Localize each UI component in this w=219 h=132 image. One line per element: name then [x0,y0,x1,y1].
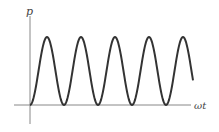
power-waveform-diagram: p ωt [0,0,219,132]
x-axis-label: ωt [194,100,207,111]
power-curve [30,37,193,105]
y-axis-label: p [26,5,33,18]
